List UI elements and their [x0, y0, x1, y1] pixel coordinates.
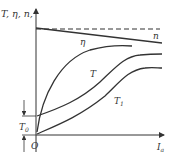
y-axis-label: T, η, n,	[1, 8, 33, 19]
x-axis-label: Ia	[156, 142, 165, 153]
T0-label: T0	[19, 122, 29, 133]
T-curve	[37, 54, 162, 116]
n-curve	[36, 28, 162, 43]
T-label: T	[90, 69, 97, 79]
n-label: n	[153, 31, 159, 41]
eta-curve	[37, 46, 132, 132]
eta-label: η	[80, 37, 86, 47]
origin-label: O	[31, 141, 39, 151]
T1-label: T1	[114, 96, 124, 107]
performance-characteristics-chart: T, η, n, n η T T1 T0 O Ia	[0, 0, 172, 166]
